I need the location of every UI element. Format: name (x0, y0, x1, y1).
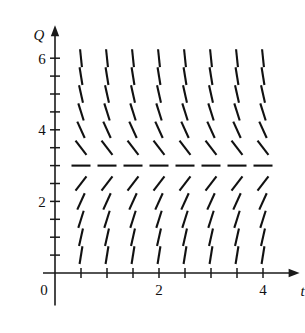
slope-segment (236, 246, 239, 264)
slope-segment (236, 49, 238, 67)
slope-segment (154, 176, 165, 190)
slope-segment (234, 103, 239, 120)
slope-segment (184, 246, 187, 264)
y-axis-arrow-icon (51, 25, 59, 36)
slope-segment (261, 228, 265, 246)
slope-segment (76, 176, 87, 190)
slope-segment (260, 211, 265, 228)
slope-segment (156, 211, 161, 228)
slope-segment (207, 122, 214, 138)
slope-segment (262, 67, 265, 85)
slope-segment (262, 246, 265, 264)
slope-segment (131, 85, 135, 103)
slope-segment (157, 85, 161, 103)
slope-segment (129, 122, 136, 138)
slope-segment (80, 246, 83, 264)
slope-segment (103, 193, 110, 209)
x-axis-name: t (301, 283, 305, 299)
x-axis-tick-label: 4 (259, 282, 267, 298)
slope-segment (132, 67, 135, 85)
slope-segment (210, 246, 213, 264)
slope-segment (180, 141, 191, 155)
slope-segment (181, 122, 188, 138)
slope-segment (183, 228, 187, 246)
slope-segment (183, 85, 187, 103)
y-axis-name: Q (34, 27, 45, 43)
slope-segment (80, 67, 83, 85)
slope-segment (78, 211, 83, 228)
slope-segment (208, 103, 213, 120)
slope-segment (128, 176, 139, 190)
slope-segment (184, 49, 186, 67)
slope-segment (206, 141, 217, 155)
slope-segment (155, 122, 162, 138)
slope-segment (79, 228, 83, 246)
slope-segment (106, 67, 109, 85)
slope-segment (210, 67, 213, 85)
slope-segment (77, 122, 84, 138)
slope-segment (232, 141, 243, 155)
slope-segment (106, 246, 109, 264)
slope-segment (234, 211, 239, 228)
slope-segment (130, 211, 135, 228)
slope-field-figure: 024246tQ (0, 0, 305, 333)
slope-field-plot: 024246tQ (0, 0, 305, 333)
slope-segment (207, 193, 214, 209)
slope-segment (132, 49, 134, 67)
slope-segment (104, 103, 109, 120)
slope-segment (158, 246, 161, 264)
slope-segment (102, 141, 113, 155)
slope-segment (155, 193, 162, 209)
slope-segment (206, 176, 217, 190)
y-axis-tick-label: 2 (38, 194, 46, 210)
slope-segment (129, 193, 136, 209)
slope-segment (258, 141, 269, 155)
slope-segment (104, 211, 109, 228)
slope-segment (77, 193, 84, 209)
origin-label: 0 (40, 282, 48, 298)
slope-segment (105, 228, 109, 246)
slope-segment (209, 85, 213, 103)
slope-segment (80, 49, 82, 67)
slope-segment (102, 176, 113, 190)
slope-segment (157, 228, 161, 246)
slope-segment (132, 246, 135, 264)
slope-segment (236, 67, 239, 85)
slope-segment (158, 67, 161, 85)
slope-segment (233, 193, 240, 209)
slope-segment (232, 176, 243, 190)
slope-segment (235, 228, 239, 246)
slope-segment (131, 228, 135, 246)
slope-segment (261, 85, 265, 103)
slope-segment (76, 141, 87, 155)
slope-segment (258, 176, 269, 190)
slope-segment (209, 228, 213, 246)
slope-segment (130, 103, 135, 120)
y-axis-tick-label: 6 (38, 51, 46, 67)
x-axis-tick-label: 2 (155, 282, 163, 298)
slope-segment (106, 49, 108, 67)
slope-segment (259, 193, 266, 209)
slope-segment (260, 103, 265, 120)
slope-segment (154, 141, 165, 155)
x-axis-arrow-icon (289, 269, 300, 277)
slope-segment (78, 103, 83, 120)
slope-segment (158, 49, 160, 67)
slope-segment (208, 211, 213, 228)
slope-segment (128, 141, 139, 155)
slope-segment (184, 67, 187, 85)
slope-segment (103, 122, 110, 138)
slope-segment (182, 211, 187, 228)
axis-labels-group: 024246tQ (34, 27, 305, 299)
slope-segment (79, 85, 83, 103)
slope-segment (235, 85, 239, 103)
slope-segment (259, 122, 266, 138)
slope-segment (182, 103, 187, 120)
slope-segment (210, 49, 212, 67)
y-axis-tick-label: 4 (38, 122, 46, 138)
slope-segment (105, 85, 109, 103)
slope-segment (156, 103, 161, 120)
slope-segment-group (72, 49, 273, 264)
slope-segment (180, 176, 191, 190)
slope-segment (233, 122, 240, 138)
